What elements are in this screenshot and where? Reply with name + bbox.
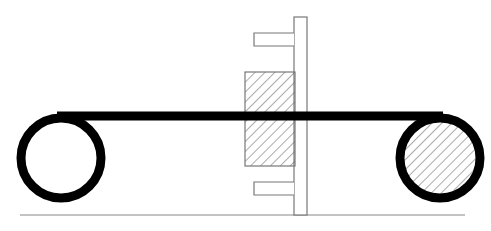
diagram-canvas xyxy=(0,0,491,231)
left-pulley xyxy=(21,118,101,198)
conveyor-diagram xyxy=(0,0,491,231)
bottom-flange xyxy=(254,182,294,195)
top-flange xyxy=(254,33,294,46)
